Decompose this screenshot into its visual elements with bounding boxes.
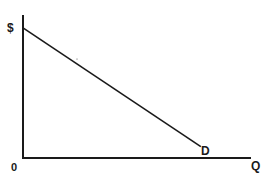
demand-chart: $ 0 D Q xyxy=(0,0,273,180)
speck xyxy=(76,58,77,59)
x-axis-label: Q xyxy=(251,159,260,173)
y-axis-label: $ xyxy=(7,21,14,35)
demand-curve xyxy=(23,28,201,147)
curve-label-d: D xyxy=(201,144,210,158)
origin-label: 0 xyxy=(11,161,17,173)
